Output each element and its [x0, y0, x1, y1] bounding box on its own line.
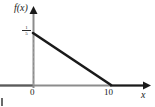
y-axis-arrowhead [30, 6, 38, 14]
x-tick-label-ten: 10 [104, 88, 113, 97]
x-axis-label: x [141, 90, 145, 100]
function-line [33, 33, 111, 85]
x-tick-label-origin: 0 [30, 88, 35, 97]
y-intercept-denominator: 5 [21, 31, 32, 36]
y-axis-label: f(x) [14, 3, 28, 13]
corner-artifact-mark [1, 98, 3, 106]
function-graph-figure: f(x) x 0 10 1 5 [0, 0, 155, 107]
y-intercept-fraction-label: 1 5 [21, 25, 32, 36]
plot-area [0, 0, 155, 107]
